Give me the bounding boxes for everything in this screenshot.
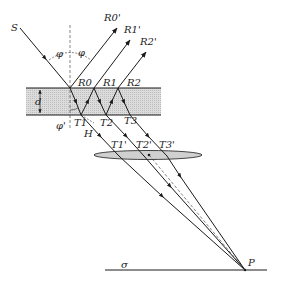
label-t1-prime: T1' <box>111 139 127 150</box>
angle-phi-prime: φ' <box>56 120 66 131</box>
thickness-label: d <box>35 96 41 107</box>
label-t2: T2 <box>100 117 113 128</box>
screen-label: σ <box>121 259 129 270</box>
glass-plate <box>26 88 161 115</box>
source-label: S <box>11 22 18 33</box>
focus-point <box>244 269 246 271</box>
label-t1: T1 <box>74 117 87 128</box>
angle-phi-left: φ <box>56 48 63 59</box>
focus-label: P <box>247 257 255 268</box>
label-r2-prime: R2' <box>139 36 157 47</box>
label-t3-prime: T3' <box>159 139 175 150</box>
chief-ray <box>149 155 245 270</box>
angle-phi-right: φ <box>78 47 85 58</box>
label-r1-prime: R1' <box>123 24 141 35</box>
interference-diagram: d φ φ φ' S R0' R1' R2' R0 R1 R2 T1 T2 T3… <box>0 0 287 283</box>
label-h: H <box>83 128 93 139</box>
label-t2-prime: T2' <box>136 139 152 150</box>
label-r0: R0 <box>77 77 93 88</box>
label-r0-prime: R0' <box>103 12 121 23</box>
label-r2: R2 <box>126 77 141 88</box>
label-r1: R1 <box>102 77 117 88</box>
